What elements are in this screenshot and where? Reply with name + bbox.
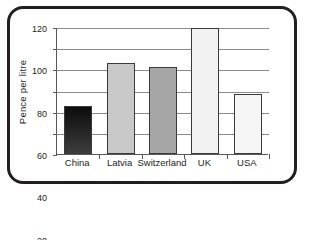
bar-chart: Pence per litre 020406080100120 ChinaLat… [0,0,311,199]
x-axis-tick [269,154,270,159]
y-axis-title: Pence per litre [17,60,28,124]
bar [64,106,92,154]
y-axis-tick-label: 80 [37,109,47,118]
y-axis-tick-label: 40 [37,194,47,199]
y-axis-tick: 0 [53,155,57,156]
y-axis-tick: 80 [53,70,57,71]
x-axis-tick [227,154,228,159]
x-axis-label: Switzerland [137,158,186,168]
gridline [57,49,269,50]
bar [191,28,219,154]
gridline [57,28,269,29]
bar [149,67,177,154]
x-axis-tick [99,154,100,159]
bar [234,94,262,154]
x-axis-label: China [65,158,90,168]
y-axis-tick: 120 [53,28,57,29]
y-axis-tick-label: 120 [32,25,47,34]
y-axis-tick-label: 100 [32,67,47,76]
x-axis-label: Latvia [107,158,132,168]
y-axis-tick: 20 [53,134,57,135]
x-axis-label: USA [237,158,257,168]
plot-area: 020406080100120 [56,28,268,155]
y-axis-tick-label: 60 [37,152,47,161]
y-axis-tick: 60 [53,92,57,93]
bar [107,63,135,154]
x-axis-label: UK [198,158,211,168]
y-axis-tick: 100 [53,49,57,50]
y-axis-tick: 40 [53,113,57,114]
